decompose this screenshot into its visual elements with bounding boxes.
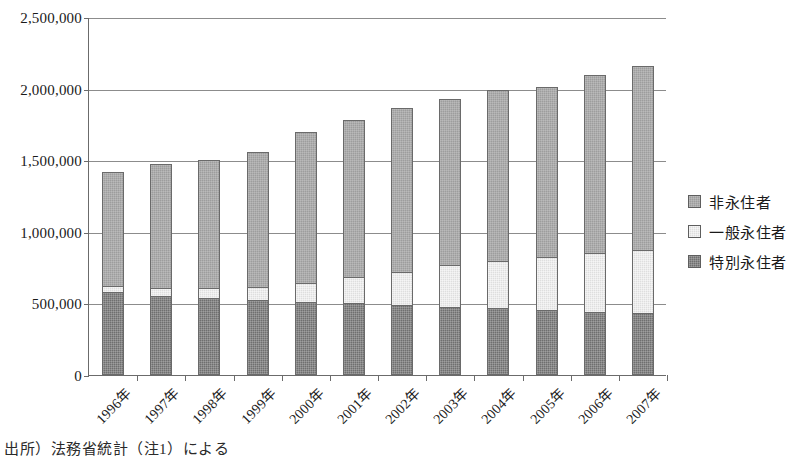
bar-2001 (343, 120, 365, 375)
x-axis-label-text: 2001年 (332, 383, 377, 428)
x-axis-label: 2007年 (608, 383, 665, 440)
x-axis-label-text: 2000年 (283, 383, 328, 428)
bar-2005 (536, 87, 558, 375)
legend-item-1: 一般永住者 (688, 216, 792, 246)
legend-item-0: 非永住者 (688, 186, 792, 216)
y-axis-label: 1,500,000 (20, 153, 82, 170)
x-tick-mark (137, 375, 138, 381)
legend-swatch-icon (688, 225, 701, 238)
legend-label: 非永住者 (709, 191, 771, 212)
x-axis-label: 2004年 (464, 383, 521, 440)
bar-1996 (102, 172, 124, 375)
x-axis-label: 2002年 (368, 383, 425, 440)
bar-segment (150, 296, 172, 375)
bar-1999 (247, 152, 269, 375)
legend-label: 特別永住者 (709, 251, 787, 272)
bar-segment (295, 302, 317, 375)
x-axis-label-text: 1998年 (187, 383, 232, 428)
bar-group (89, 18, 666, 375)
bar-segment (343, 120, 365, 277)
bar-segment (536, 310, 558, 375)
bar-2006 (584, 75, 606, 375)
x-axis-label-text: 2003年 (428, 383, 473, 428)
bar-segment (391, 305, 413, 375)
bar-segment (439, 307, 461, 375)
y-axis-label: 0 (74, 368, 82, 385)
x-tick-mark (378, 375, 379, 381)
legend-item-2: 特別永住者 (688, 246, 792, 276)
x-tick-mark (185, 375, 186, 381)
bar-2007 (632, 66, 654, 375)
bar-segment (439, 265, 461, 307)
bar-segment (632, 66, 654, 251)
bar-segment (584, 75, 606, 252)
bar-2000 (295, 132, 317, 375)
x-axis-label-text: 1999年 (235, 383, 280, 428)
legend-swatch-icon (688, 255, 701, 268)
bar-1997 (150, 164, 172, 375)
y-axis-label: 500,000 (32, 296, 82, 313)
x-axis-label-text: 2002年 (380, 383, 425, 428)
bar-segment (487, 308, 509, 375)
bar-segment (343, 277, 365, 303)
x-tick-mark (619, 375, 620, 381)
x-tick-mark (523, 375, 524, 381)
x-axis-label: 2005年 (512, 383, 569, 440)
x-axis-label: 1999年 (223, 383, 280, 440)
x-tick-mark (426, 375, 427, 381)
x-tick-mark (571, 375, 572, 381)
bar-2004 (487, 90, 509, 375)
immigration-stacked-bar-chart: 0500,0001,000,0001,500,0002,000,0002,500… (0, 0, 792, 459)
y-axis-label: 2,500,000 (20, 10, 82, 27)
bar-segment (247, 300, 269, 375)
x-axis-label-text: 1996年 (91, 383, 136, 428)
x-axis-label: 1996年 (79, 383, 136, 440)
bar-2003 (439, 99, 461, 375)
plot-area: 0500,0001,000,0001,500,0002,000,0002,500… (88, 18, 666, 376)
bar-segment (487, 261, 509, 308)
y-axis-label: 1,000,000 (20, 224, 82, 241)
x-tick-mark (330, 375, 331, 381)
bar-segment (632, 313, 654, 375)
x-tick-mark (282, 375, 283, 381)
legend-swatch-icon (688, 195, 701, 208)
y-tick-mark (84, 376, 89, 377)
bar-segment (295, 132, 317, 282)
bar-segment (487, 90, 509, 261)
x-axis-label: 2006年 (560, 383, 617, 440)
bar-segment (198, 288, 220, 299)
x-axis-label-text: 2006年 (572, 383, 617, 428)
x-tick-mark (667, 375, 668, 381)
bar-segment (391, 108, 413, 272)
bar-segment (150, 164, 172, 288)
x-tick-mark (234, 375, 235, 381)
bar-segment (198, 298, 220, 375)
bar-segment (439, 99, 461, 265)
x-axis-label-text: 2004年 (476, 383, 521, 428)
bar-2002 (391, 108, 413, 375)
x-axis-label-text: 2007年 (621, 383, 666, 428)
bar-segment (536, 87, 558, 257)
source-caption: 出所）法務省統計（注1）による (4, 437, 229, 458)
bar-segment (102, 292, 124, 375)
bar-segment (150, 288, 172, 297)
x-axis-label: 1997年 (127, 383, 184, 440)
bar-segment (536, 257, 558, 310)
bar-segment (391, 272, 413, 305)
bar-segment (198, 160, 220, 288)
bar-segment (584, 312, 606, 375)
x-axis-label-text: 1997年 (139, 383, 184, 428)
x-axis-label-text: 2005年 (524, 383, 569, 428)
x-axis-label: 2003年 (416, 383, 473, 440)
bar-segment (295, 283, 317, 302)
bar-segment (343, 303, 365, 375)
bar-1998 (198, 160, 220, 375)
bar-segment (584, 253, 606, 312)
x-axis-label: 2001年 (319, 383, 376, 440)
legend-label: 一般永住者 (709, 221, 787, 242)
bar-segment (247, 287, 269, 300)
x-axis-label: 1998年 (175, 383, 232, 440)
bar-segment (247, 152, 269, 287)
y-axis-label: 2,000,000 (20, 81, 82, 98)
bar-segment (102, 172, 124, 286)
